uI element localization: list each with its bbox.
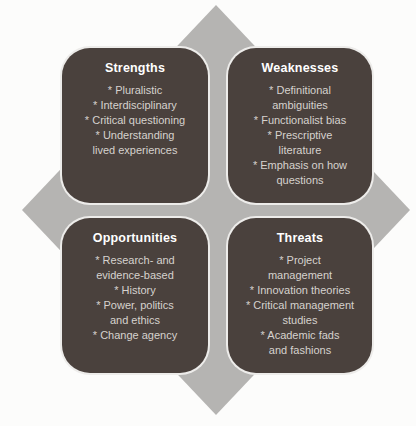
swot-item: * Prescriptive literature	[236, 128, 364, 158]
quadrant-opportunities-title: Opportunities	[70, 231, 200, 245]
quadrant-weaknesses: Weaknesses * Definitional ambiguities * …	[228, 48, 372, 203]
swot-item: * Critical questioning	[70, 113, 200, 128]
swot-item: * Emphasis on how questions	[236, 158, 364, 188]
swot-item: * Project management	[236, 253, 364, 283]
swot-item: * Critical management studies	[236, 298, 364, 328]
swot-item: * Power, politics and ethics	[70, 298, 200, 328]
quadrant-threats-items: * Project management * Innovation theori…	[236, 253, 364, 358]
swot-item: * Definitional ambiguities	[236, 83, 364, 113]
swot-item: * Understanding lived experiences	[70, 128, 200, 158]
swot-item: * Pluralistic	[70, 83, 200, 98]
quadrant-strengths: Strengths * Pluralistic * Interdisciplin…	[62, 48, 208, 203]
quadrant-weaknesses-items: * Definitional ambiguities * Functionali…	[236, 83, 364, 188]
swot-item: * Functionalist bias	[236, 113, 364, 128]
quadrant-strengths-items: * Pluralistic * Interdisciplinary * Crit…	[70, 83, 200, 158]
swot-item: * Interdisciplinary	[70, 98, 200, 113]
swot-item: * Research- and evidence-based	[70, 253, 200, 283]
swot-item: * Change agency	[70, 328, 200, 343]
quadrant-threats: Threats * Project management * Innovatio…	[228, 218, 372, 373]
swot-item: * Academic fads and fashions	[236, 328, 364, 358]
quadrant-opportunities-items: * Research- and evidence-based * History…	[70, 253, 200, 343]
swot-diagram: Strengths * Pluralistic * Interdisciplin…	[0, 0, 416, 426]
quadrant-opportunities: Opportunities * Research- and evidence-b…	[62, 218, 208, 373]
swot-item: * Innovation theories	[236, 283, 364, 298]
swot-item: * History	[70, 283, 200, 298]
quadrant-weaknesses-title: Weaknesses	[236, 61, 364, 75]
quadrant-strengths-title: Strengths	[70, 61, 200, 75]
quadrant-threats-title: Threats	[236, 231, 364, 245]
